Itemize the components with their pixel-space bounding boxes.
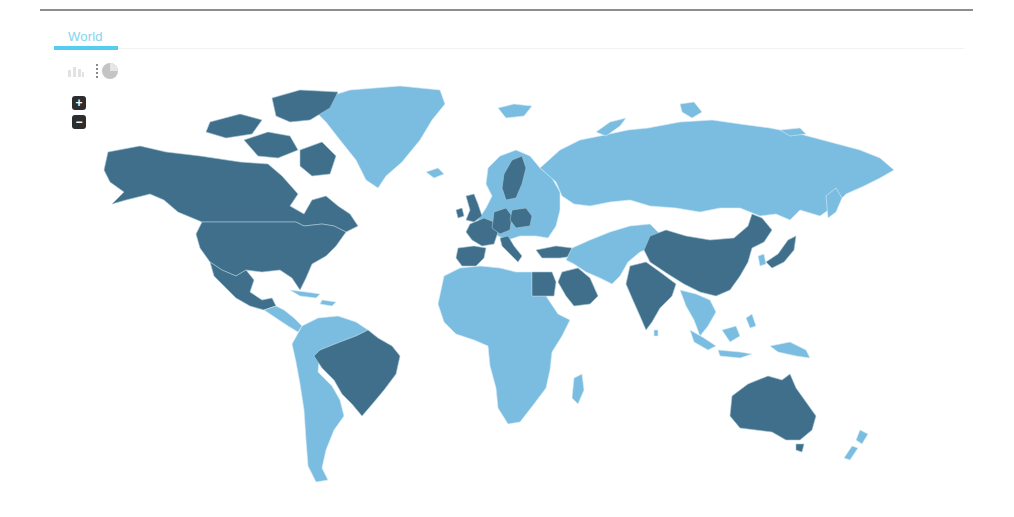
tab-world-label: World bbox=[68, 29, 103, 44]
world-map-svg bbox=[100, 80, 920, 500]
region-italy[interactable] bbox=[500, 236, 522, 262]
zoom-out-button[interactable]: − bbox=[72, 115, 86, 129]
region-egypt[interactable] bbox=[532, 272, 556, 296]
zoom-in-button[interactable]: + bbox=[72, 96, 86, 110]
region-madagascar[interactable] bbox=[572, 374, 584, 404]
tab-world[interactable]: World bbox=[54, 28, 118, 52]
region-united-kingdom[interactable] bbox=[456, 194, 482, 222]
region-central-america[interactable] bbox=[264, 306, 302, 332]
region-sri-lanka[interactable] bbox=[654, 330, 658, 336]
tab-divider bbox=[118, 48, 964, 49]
region-germany[interactable] bbox=[492, 208, 512, 234]
active-tab-indicator bbox=[54, 46, 118, 50]
region-spain[interactable] bbox=[456, 246, 486, 266]
region-caribbean[interactable] bbox=[290, 290, 336, 306]
region-japan[interactable] bbox=[766, 236, 796, 268]
bar-chart-icon bbox=[67, 65, 85, 77]
world-map[interactable] bbox=[100, 80, 920, 500]
region-southeast-asia[interactable] bbox=[680, 290, 716, 336]
pie-chart-icon bbox=[95, 62, 121, 80]
region-iceland[interactable] bbox=[426, 168, 444, 178]
bar-chart-button[interactable] bbox=[66, 63, 86, 79]
region-new-zealand[interactable] bbox=[844, 430, 868, 460]
tab-bar: World bbox=[54, 28, 964, 52]
pie-chart-button[interactable] bbox=[95, 63, 121, 79]
region-korea[interactable] bbox=[758, 254, 766, 266]
region-australia[interactable] bbox=[730, 374, 816, 452]
top-divider bbox=[40, 9, 973, 11]
region-russia[interactable] bbox=[540, 120, 894, 220]
